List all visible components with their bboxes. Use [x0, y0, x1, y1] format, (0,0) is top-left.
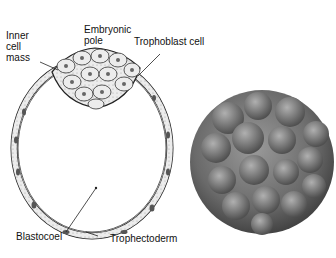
trophoblast-cell-label: Trophoblast cell [134, 36, 204, 47]
blastocyst-micrograph [190, 90, 334, 235]
blastocoel-label: Blastocoel [16, 231, 62, 242]
trophectoderm-label: Trophectoderm [110, 233, 177, 244]
embryonic-pole-label: Embryonic pole [84, 24, 131, 46]
inner-cell-mass-label: Inner cell mass [6, 30, 30, 63]
